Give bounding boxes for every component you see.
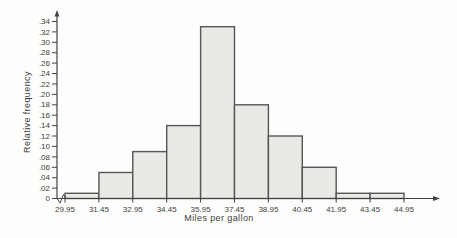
histogram-bar bbox=[235, 105, 269, 199]
x-tick-label: 29.95 bbox=[55, 205, 76, 214]
x-tick-label: 44.95 bbox=[394, 205, 415, 214]
y-tick-label: .10 bbox=[39, 142, 51, 151]
y-axis-title: Relative frequency bbox=[22, 71, 32, 153]
y-tick-label: .22 bbox=[39, 80, 51, 89]
y-tick-label: .18 bbox=[39, 100, 51, 109]
histogram-bar bbox=[336, 193, 370, 198]
histogram-bar bbox=[302, 167, 336, 198]
y-tick-label: .34 bbox=[39, 17, 51, 26]
y-tick-label: .12 bbox=[39, 132, 51, 141]
histogram-bar bbox=[201, 27, 235, 199]
histogram-bar bbox=[65, 193, 99, 198]
y-tick-label: .32 bbox=[39, 28, 51, 37]
x-tick-label: 34.45 bbox=[157, 205, 178, 214]
y-tick-label: .14 bbox=[39, 121, 51, 130]
histogram-figure: 0.02.04.06.08.10.12.14.16.18.20.22.24.26… bbox=[0, 0, 457, 238]
x-tick-label: 31.45 bbox=[89, 205, 110, 214]
y-tick-label: .20 bbox=[39, 90, 51, 99]
y-tick-label: .28 bbox=[39, 48, 51, 57]
y-tick-label: .24 bbox=[39, 69, 51, 78]
y-tick-label: 0 bbox=[46, 194, 51, 203]
x-axis-title: Miles per gallon bbox=[184, 213, 253, 223]
x-tick-label: 32.95 bbox=[123, 205, 144, 214]
y-axis-arrow-icon bbox=[55, 10, 60, 17]
x-tick-label: 41.95 bbox=[326, 205, 347, 214]
y-tick-label: .06 bbox=[39, 163, 51, 172]
histogram-chart: 0.02.04.06.08.10.12.14.16.18.20.22.24.26… bbox=[0, 0, 457, 238]
histogram-bar bbox=[167, 126, 201, 199]
y-tick-label: .30 bbox=[39, 38, 51, 47]
histogram-bar bbox=[133, 152, 167, 199]
y-tick-label: .16 bbox=[39, 111, 51, 120]
x-tick-label: 43.45 bbox=[360, 205, 381, 214]
y-tick-label: .04 bbox=[39, 173, 51, 182]
y-tick-label: .02 bbox=[39, 184, 51, 193]
histogram-bar bbox=[370, 193, 404, 198]
histogram-bar bbox=[268, 136, 302, 199]
y-tick-label: .08 bbox=[39, 153, 51, 162]
x-axis-arrow-icon bbox=[433, 196, 440, 201]
x-tick-label: 38.95 bbox=[258, 205, 279, 214]
histogram-bar bbox=[99, 173, 133, 199]
x-tick-label: 40.45 bbox=[292, 205, 313, 214]
y-tick-label: .26 bbox=[39, 59, 51, 68]
